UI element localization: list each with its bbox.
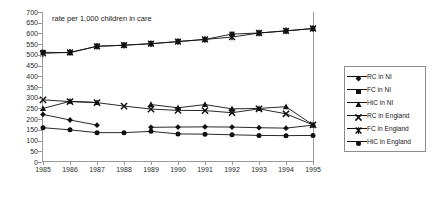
y-axis-tick — [38, 44, 42, 45]
plot-area — [42, 12, 314, 162]
y-axis-tick-label: 400 — [26, 73, 38, 80]
x-axis-tick-label: 1985 — [35, 166, 51, 174]
y-axis-tick-label: 450 — [26, 62, 38, 69]
x-axis-tick — [178, 161, 179, 165]
legend-marker-icon — [347, 110, 367, 121]
y-axis-tick — [38, 108, 42, 109]
legend-marker-icon — [347, 97, 367, 108]
legend-marker-icon — [347, 84, 367, 95]
x-axis-tick-label: 1993 — [251, 166, 267, 174]
x-axis-tick-label: 1995 — [305, 166, 321, 174]
x-axis-tick-label: 1989 — [143, 166, 159, 174]
chart-legend: RC in NIFC in NIHiC in NIRC in EnglandFC… — [344, 66, 426, 152]
x-axis-tick-label: 1987 — [89, 166, 105, 174]
chart-title: rate per 1,000 children in care — [52, 14, 152, 23]
legend-marker-icon — [347, 71, 367, 82]
y-axis-tick-label: 250 — [26, 105, 38, 112]
x-axis-tick — [124, 161, 125, 165]
legend-item-label: HiC in NI — [367, 99, 393, 107]
legend-marker-icon — [347, 123, 367, 134]
x-axis-tick — [151, 161, 152, 165]
y-axis-tick — [38, 130, 42, 131]
legend-item-label: HiC in England — [367, 138, 411, 146]
legend-item-rc-in-ni[interactable]: RC in NI — [347, 70, 423, 83]
legend-marker-icon — [347, 136, 367, 147]
y-axis-tick-label: 150 — [26, 126, 38, 133]
x-axis-tick — [232, 161, 233, 165]
legend-item-hic-in-ni[interactable]: HiC in NI — [347, 96, 423, 109]
x-axis-tick-label: 1992 — [224, 166, 240, 174]
y-axis-tick-label: 550 — [26, 41, 38, 48]
y-axis-tick — [38, 23, 42, 24]
x-axis-labels: 1985198619871988198919901991199219931994… — [42, 166, 314, 178]
legend-item-rc-in-england[interactable]: RC in England — [347, 109, 423, 122]
x-axis-tick-label: 1986 — [62, 166, 78, 174]
y-axis-tick — [38, 55, 42, 56]
y-axis-tick — [38, 119, 42, 120]
y-axis-tick-label: 500 — [26, 51, 38, 58]
chart-container: 0501001502002503003504004505005506006507… — [0, 0, 432, 197]
y-axis-labels: 0501001502002503003504004505005506006507… — [0, 12, 38, 162]
y-axis-tick-label: 650 — [26, 19, 38, 26]
y-axis-tick — [38, 98, 42, 99]
y-axis-tick-label: 350 — [26, 84, 38, 91]
legend-item-fc-in-ni[interactable]: FC in NI — [347, 83, 423, 96]
legend-item-label: FC in NI — [367, 86, 391, 94]
y-axis-tick-label: 50 — [30, 148, 38, 155]
legend-item-fc-in-england[interactable]: FC in England — [347, 122, 423, 135]
x-axis-tick — [43, 161, 44, 165]
y-axis-tick-label: 200 — [26, 116, 38, 123]
y-axis-tick — [38, 12, 42, 13]
series-rc-in-ni — [40, 112, 316, 132]
x-axis-tick — [205, 161, 206, 165]
x-axis-tick-label: 1994 — [278, 166, 294, 174]
y-axis-tick-label: 700 — [26, 9, 38, 16]
y-axis-tick — [38, 76, 42, 77]
y-axis-tick — [38, 151, 42, 152]
x-axis-tick — [70, 161, 71, 165]
x-axis-tick-label: 1988 — [116, 166, 132, 174]
x-axis-tick-label: 1990 — [170, 166, 186, 174]
y-axis-tick — [38, 162, 42, 163]
series-fc-in-england — [40, 25, 316, 56]
x-axis-tick — [259, 161, 260, 165]
legend-item-label: FC in England — [367, 125, 409, 133]
y-axis-tick — [38, 66, 42, 67]
legend-item-label: RC in England — [367, 112, 410, 120]
x-axis-tick — [286, 161, 287, 165]
legend-item-label: RC in NI — [367, 73, 392, 81]
series-layer — [42, 12, 314, 162]
y-axis-tick — [38, 33, 42, 34]
y-axis-tick-label: 600 — [26, 30, 38, 37]
y-axis-tick-label: 300 — [26, 94, 38, 101]
y-axis-tick — [38, 87, 42, 88]
x-axis-tick — [97, 161, 98, 165]
y-axis-tick — [38, 141, 42, 142]
x-axis-tick — [313, 161, 314, 165]
y-axis-tick-label: 100 — [26, 137, 38, 144]
x-axis-tick-label: 1991 — [197, 166, 213, 174]
legend-item-hic-in-england[interactable]: HiC in England — [347, 135, 423, 148]
